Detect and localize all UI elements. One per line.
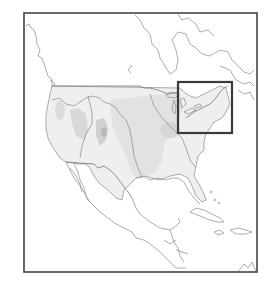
north-america-map xyxy=(0,0,270,287)
united-states xyxy=(46,86,230,202)
central-america xyxy=(136,230,188,268)
caribbean-islands xyxy=(190,191,256,272)
